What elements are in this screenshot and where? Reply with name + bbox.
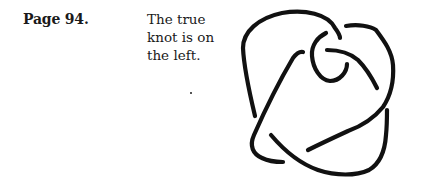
knot-strand-inner-loop bbox=[312, 33, 347, 81]
knot-strand-outer-right bbox=[308, 25, 393, 150]
knot-diagram-icon bbox=[0, 0, 423, 183]
knot-strand-diagonal bbox=[252, 52, 303, 162]
